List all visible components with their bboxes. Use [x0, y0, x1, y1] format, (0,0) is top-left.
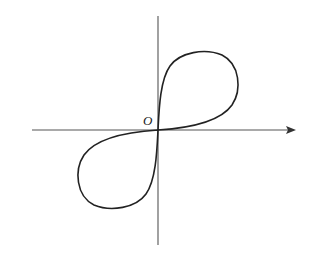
origin-label: O	[143, 113, 153, 128]
upper-lobe	[158, 52, 238, 130]
curve-diagram: O	[0, 0, 311, 255]
lower-lobe	[78, 130, 158, 208]
